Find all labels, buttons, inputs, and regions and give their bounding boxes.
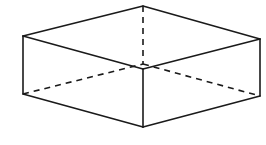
box-diagram <box>0 0 266 145</box>
edge-bottom-left-front <box>23 94 143 127</box>
edge-bottom-front-right <box>143 96 260 127</box>
edge-bottom-left-back-hidden <box>23 64 143 94</box>
edge-top-back-right <box>143 6 260 39</box>
box-drawing <box>0 0 266 145</box>
visible-edges <box>23 6 260 127</box>
edge-top-left-front <box>23 36 143 69</box>
edge-top-front-right <box>143 39 260 69</box>
hidden-edges <box>23 6 260 96</box>
edge-top-left-back <box>23 6 143 36</box>
edge-bottom-back-right-hidden <box>143 64 260 96</box>
